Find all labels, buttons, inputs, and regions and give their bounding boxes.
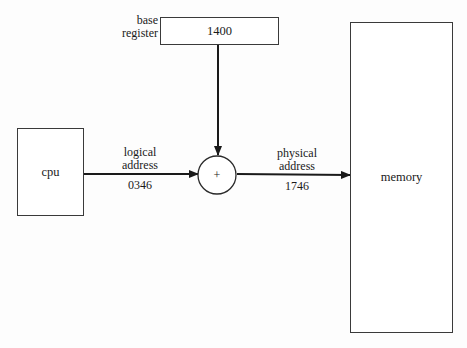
- memory-label: memory: [381, 170, 423, 185]
- adder-to-memory-arrow: [237, 174, 350, 175]
- physical-address-value: 1746: [262, 180, 332, 193]
- relocation-diagram: + 1400 base register cpu memory logical …: [0, 0, 467, 348]
- logical-address-label-line2: address: [108, 159, 172, 172]
- base-register-box: 1400: [160, 17, 279, 45]
- logical-address-label: logical address: [108, 146, 172, 172]
- cpu-box: cpu: [17, 128, 84, 216]
- physical-address-label: physical address: [262, 147, 332, 173]
- physical-address-label-line2: address: [262, 160, 332, 173]
- adder-plus-symbol: +: [207, 165, 227, 185]
- cpu-label: cpu: [41, 165, 59, 180]
- base-register-label: base register: [112, 14, 158, 40]
- base-register-value: 1400: [207, 24, 232, 39]
- memory-box: memory: [350, 22, 453, 333]
- base-register-label-line2: register: [112, 27, 158, 40]
- logical-address-value: 0346: [108, 179, 172, 192]
